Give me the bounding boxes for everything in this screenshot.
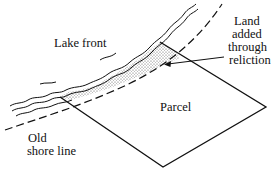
parcel-label: Parcel [160, 101, 191, 114]
lake-front-label: Lake front [54, 37, 106, 50]
old-shore-line-label-line2: shore line [27, 145, 76, 158]
land-added-label-line4: reliction [229, 54, 271, 67]
reliction-area [60, 42, 180, 100]
